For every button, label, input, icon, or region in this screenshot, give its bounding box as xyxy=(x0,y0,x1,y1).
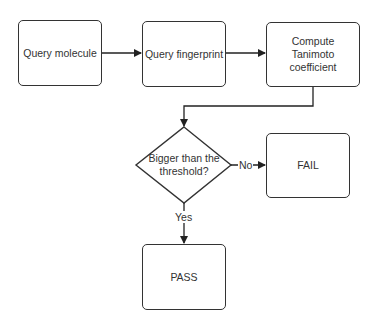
node-query-fingerprint: Query fingerprint xyxy=(142,21,226,87)
edge-compute-to-decision xyxy=(184,86,313,126)
edge-label-yes: Yes xyxy=(174,211,193,223)
node-pass-text: PASS xyxy=(170,271,197,284)
node-query-fingerprint-text: Query fingerprint xyxy=(145,48,223,61)
node-fail-text: FAIL xyxy=(297,159,319,172)
node-compute-line1: Compute xyxy=(292,35,335,48)
edge-label-no: No xyxy=(238,159,253,171)
node-query-molecule: Query molecule xyxy=(18,20,102,86)
node-decision-text: Bigger than the threshold? xyxy=(140,152,228,178)
node-decision-line1: Bigger than the xyxy=(140,152,228,165)
node-compute-tanimoto: Compute Tanimoto coefficient xyxy=(266,22,360,87)
node-decision-line2: threshold? xyxy=(140,165,228,178)
node-query-molecule-text: Query molecule xyxy=(23,47,97,60)
node-compute-line2: Tanimoto coefficient xyxy=(267,48,359,74)
node-pass: PASS xyxy=(142,244,226,310)
node-fail: FAIL xyxy=(266,133,350,198)
